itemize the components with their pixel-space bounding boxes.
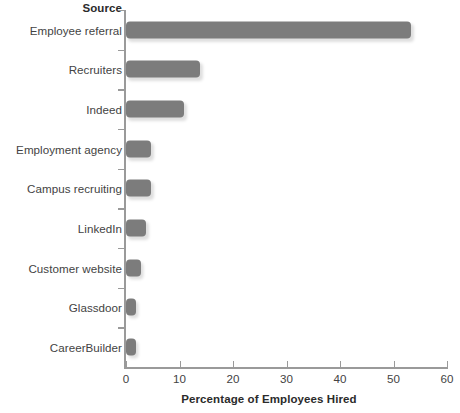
x-axis-tick bbox=[394, 361, 395, 368]
bar-row: Glassdoor bbox=[0, 288, 460, 328]
bar bbox=[126, 339, 136, 356]
y-axis-tick bbox=[118, 208, 125, 209]
x-axis-title: Percentage of Employees Hired bbox=[0, 393, 460, 405]
y-axis-tick bbox=[118, 10, 125, 11]
x-axis-tick-label: 50 bbox=[387, 372, 400, 385]
y-axis-tick bbox=[118, 50, 125, 51]
bar-row: Indeed bbox=[0, 89, 460, 129]
bar-row: Customer website bbox=[0, 248, 460, 288]
bar bbox=[126, 259, 141, 276]
category-label: Employment agency bbox=[16, 142, 122, 155]
bar-row: LinkedIn bbox=[0, 208, 460, 248]
x-axis-tick-label: 10 bbox=[173, 372, 186, 385]
category-label: Glassdoor bbox=[69, 301, 122, 314]
category-label: Employee referral bbox=[30, 23, 122, 36]
x-axis-tick bbox=[126, 361, 127, 368]
bar bbox=[126, 180, 151, 197]
bar-row: Recruiters bbox=[0, 50, 460, 90]
bar bbox=[126, 140, 151, 157]
x-axis-tick-label: 20 bbox=[227, 372, 240, 385]
y-axis-tick bbox=[118, 288, 125, 289]
bar-row: Employment agency bbox=[0, 129, 460, 169]
y-axis-tick bbox=[118, 129, 125, 130]
category-label: Recruiters bbox=[69, 63, 122, 76]
category-label: Indeed bbox=[86, 103, 122, 116]
x-axis-tick-label: 30 bbox=[280, 372, 293, 385]
category-label: Customer website bbox=[28, 261, 122, 274]
bar bbox=[126, 21, 411, 38]
category-label: Campus recruiting bbox=[27, 182, 122, 195]
y-axis-tick bbox=[118, 248, 125, 249]
category-label: CareerBuilder bbox=[50, 341, 122, 354]
bar bbox=[126, 220, 146, 237]
bar-chart: Source Employee referralRecruitersIndeed… bbox=[0, 0, 460, 413]
y-axis-tick bbox=[118, 327, 125, 328]
x-axis-tick-label: 40 bbox=[334, 372, 347, 385]
bar-row: CareerBuilder bbox=[0, 327, 460, 367]
x-axis-tick bbox=[233, 361, 234, 368]
bar bbox=[126, 61, 200, 78]
x-axis-tick-label: 60 bbox=[441, 372, 454, 385]
y-axis-tick bbox=[118, 89, 125, 90]
bar bbox=[126, 299, 136, 316]
bar-row: Campus recruiting bbox=[0, 169, 460, 209]
x-axis-tick bbox=[287, 361, 288, 368]
x-axis-tick bbox=[340, 361, 341, 368]
bar-row: Employee referral bbox=[0, 10, 460, 50]
y-axis-tick bbox=[118, 169, 125, 170]
category-label: LinkedIn bbox=[78, 222, 122, 235]
x-axis-tick bbox=[447, 361, 448, 368]
x-axis-tick-label: 0 bbox=[123, 372, 129, 385]
bar bbox=[126, 101, 184, 118]
x-axis-tick bbox=[180, 361, 181, 368]
